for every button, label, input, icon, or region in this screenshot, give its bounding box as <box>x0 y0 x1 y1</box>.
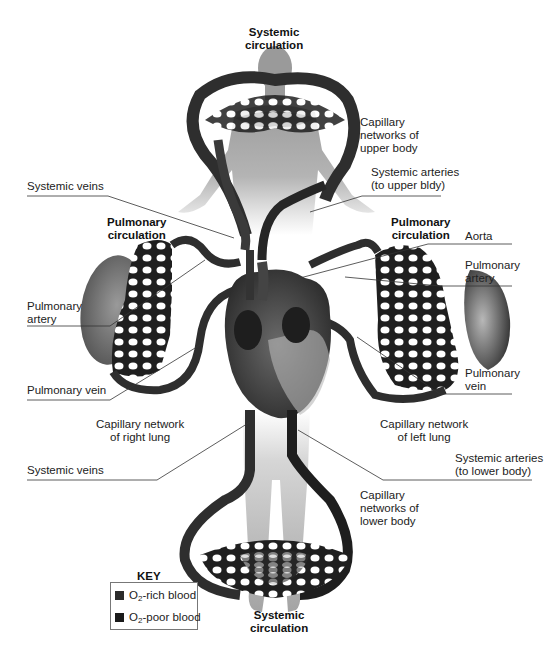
label-line: artery <box>27 313 82 326</box>
label-systemic-veins-upper: Systemic veins <box>27 180 104 193</box>
label-line: of left lung <box>380 431 468 444</box>
label-aorta: Aorta <box>465 230 493 243</box>
label-pulmonary-circulation-left: Pulmonary circulation <box>107 216 166 242</box>
label-line: Pulmonary <box>465 259 520 272</box>
label-line: circulation <box>107 229 166 242</box>
label-line: networks of <box>360 129 419 142</box>
label-line: vein <box>465 380 520 393</box>
label-systemic-circulation-bottom: Systemic circulation <box>250 609 308 635</box>
key-o2-poor-text: -poor blood <box>142 611 200 623</box>
legend-key: O2-rich blood O2-poor blood <box>110 582 198 630</box>
label-capillary-upper-body: Capillary networks of upper body <box>360 116 419 155</box>
label-systemic-arteries-lower: Systemic arteries (to lower body) <box>455 452 543 478</box>
label-line: Pulmonary <box>465 367 520 380</box>
label-line: artery <box>465 272 520 285</box>
key-o2-rich-text: -rich blood <box>142 589 196 601</box>
label-line: Systemic arteries <box>455 452 543 465</box>
label-line: (to lower body) <box>455 465 543 478</box>
key-item-o2-rich: O2-rich blood <box>115 589 196 603</box>
label-line: (to upper bldy) <box>371 179 459 192</box>
circulatory-diagram <box>0 0 552 647</box>
right-lung <box>74 240 240 390</box>
key-item-o2-poor: O2-poor blood <box>115 611 201 625</box>
label-line: networks of <box>360 502 419 515</box>
key-o2-prefix: O <box>129 589 138 601</box>
label-pulmonary-vein-left: Pulmonary vein <box>27 384 106 397</box>
label-line: lower body <box>360 515 419 528</box>
key-title: KEY <box>137 570 161 582</box>
label-line: Capillary network <box>96 418 184 431</box>
label-line: Pulmonary <box>107 216 166 229</box>
o2-rich-swatch <box>115 591 124 600</box>
label-line: Pulmonary <box>27 300 82 313</box>
label-line: Pulmonary <box>391 216 450 229</box>
label-pulmonary-circulation-right: Pulmonary circulation <box>391 216 450 242</box>
label-line: Capillary <box>360 489 419 502</box>
label-capillary-left-lung: Capillary network of left lung <box>380 418 468 444</box>
label-capillary-right-lung: Capillary network of right lung <box>96 418 184 444</box>
key-o2-prefix: O <box>129 611 138 623</box>
label-line: Systemic <box>245 26 303 39</box>
label-line: circulation <box>245 39 303 52</box>
label-line: Systemic arteries <box>371 166 459 179</box>
label-line: of right lung <box>96 431 184 444</box>
label-line: Systemic <box>250 609 308 622</box>
o2-poor-swatch <box>115 613 124 622</box>
label-line: circulation <box>391 229 450 242</box>
label-systemic-veins-lower: Systemic veins <box>27 464 104 477</box>
heart <box>225 250 331 418</box>
label-line: Capillary network <box>380 418 468 431</box>
label-line: circulation <box>250 622 308 635</box>
label-pulmonary-artery-right: Pulmonary artery <box>465 259 520 285</box>
label-capillary-lower-body: Capillary networks of lower body <box>360 489 419 528</box>
label-pulmonary-vein-right: Pulmonary vein <box>465 367 520 393</box>
label-pulmonary-artery-left: Pulmonary artery <box>27 300 82 326</box>
label-line: upper body <box>360 142 419 155</box>
label-systemic-circulation-top: Systemic circulation <box>245 26 303 52</box>
label-systemic-arteries-upper: Systemic arteries (to upper bldy) <box>371 166 459 192</box>
label-line: Capillary <box>360 116 419 129</box>
